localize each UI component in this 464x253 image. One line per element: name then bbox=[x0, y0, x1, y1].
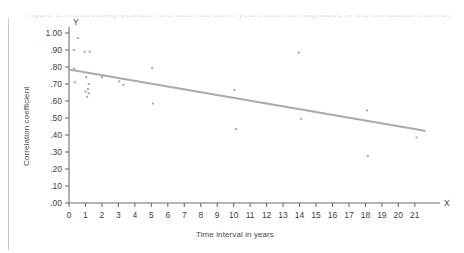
data-point bbox=[74, 81, 76, 83]
regression-trendline bbox=[69, 70, 425, 131]
x-tick-label: 17 bbox=[344, 210, 354, 220]
data-point bbox=[122, 84, 124, 86]
data-point bbox=[85, 76, 87, 78]
data-point bbox=[152, 103, 154, 105]
x-tick-label: 12 bbox=[262, 210, 272, 220]
x-tick-label: 4 bbox=[133, 210, 138, 220]
x-tick-label: 10 bbox=[229, 210, 239, 220]
y-tick-label: .60 bbox=[50, 96, 62, 106]
y-tick-label: .50 bbox=[50, 113, 62, 123]
x-tick-label: 13 bbox=[278, 210, 288, 220]
x-tick-label: 0 bbox=[67, 210, 72, 220]
x-tick-label: 16 bbox=[328, 210, 338, 220]
trendline-group bbox=[69, 70, 425, 131]
x-tick-label: 15 bbox=[311, 210, 321, 220]
y-tick-label: .70 bbox=[50, 79, 62, 89]
axis-arrow-label-group: YX bbox=[73, 17, 450, 208]
data-point bbox=[367, 155, 369, 157]
y-axis-arrow-label: Y bbox=[73, 17, 79, 27]
x-tick-label: 2 bbox=[100, 210, 105, 220]
plot-area: 1.00.90.80.70.60.50.40.30.20.10.00 01234… bbox=[0, 0, 464, 253]
data-point bbox=[366, 109, 368, 111]
data-point bbox=[234, 89, 236, 91]
x-tick-group: 0123456789101112131415161718192021 bbox=[67, 203, 420, 220]
y-tick-label: .10 bbox=[50, 181, 62, 191]
x-tick-label: 6 bbox=[165, 210, 170, 220]
x-tick-label: 7 bbox=[182, 210, 187, 220]
data-point bbox=[88, 83, 90, 85]
data-point bbox=[87, 88, 89, 90]
axes-group bbox=[69, 27, 440, 203]
y-tick-label: .00 bbox=[50, 198, 62, 208]
y-tick-group: 1.00.90.80.70.60.50.40.30.20.10.00 bbox=[45, 28, 69, 208]
data-point bbox=[73, 49, 75, 51]
x-tick-label: 21 bbox=[410, 210, 420, 220]
y-tick-label: .20 bbox=[50, 164, 62, 174]
data-point bbox=[89, 51, 91, 53]
data-point bbox=[77, 37, 79, 39]
y-tick-label: .80 bbox=[50, 62, 62, 72]
y-tick-label: 1.00 bbox=[45, 28, 62, 38]
data-point bbox=[151, 67, 153, 69]
x-tick-label: 9 bbox=[215, 210, 220, 220]
x-tick-label: 18 bbox=[361, 210, 371, 220]
data-point bbox=[300, 118, 302, 120]
data-point bbox=[86, 96, 88, 98]
x-tick-label: 20 bbox=[394, 210, 404, 220]
x-tick-label: 19 bbox=[377, 210, 387, 220]
data-point bbox=[235, 128, 237, 130]
x-axis-arrow-label: X bbox=[444, 198, 450, 208]
x-tick-label: 8 bbox=[198, 210, 203, 220]
data-point bbox=[73, 68, 75, 70]
data-point bbox=[101, 76, 103, 78]
data-point bbox=[88, 92, 90, 94]
data-point bbox=[118, 80, 120, 82]
data-point bbox=[84, 91, 86, 93]
x-tick-label: 14 bbox=[295, 210, 305, 220]
x-tick-label: 11 bbox=[246, 210, 255, 220]
x-tick-label: 5 bbox=[149, 210, 154, 220]
data-point bbox=[84, 51, 86, 53]
y-tick-label: .40 bbox=[50, 130, 62, 140]
data-point bbox=[298, 52, 300, 54]
data-point bbox=[415, 137, 417, 139]
data-point-group bbox=[73, 37, 418, 157]
y-tick-label: .30 bbox=[50, 147, 62, 157]
x-tick-label: 3 bbox=[116, 210, 121, 220]
figure-scatter-plot: Figure 3. Relationship between the time … bbox=[0, 0, 464, 253]
y-tick-label: .90 bbox=[50, 45, 62, 55]
x-tick-label: 1 bbox=[83, 210, 88, 220]
